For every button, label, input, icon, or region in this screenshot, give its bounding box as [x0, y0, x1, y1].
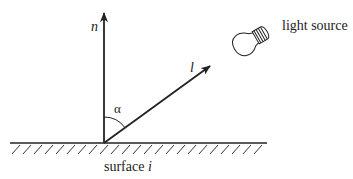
- hatch-mark: [100, 145, 108, 154]
- hatch-mark: [89, 145, 97, 154]
- hatch-mark: [188, 145, 196, 154]
- hatch-mark: [23, 145, 31, 154]
- hatch-mark: [210, 145, 218, 154]
- hatch-mark: [221, 145, 229, 154]
- surface-label-text: surface: [104, 159, 148, 174]
- hatch-mark: [78, 145, 86, 154]
- hatch-mark: [45, 145, 53, 154]
- light-vector-label: l: [190, 60, 194, 75]
- angle-arc: [104, 117, 125, 128]
- hatch-mark: [243, 145, 251, 154]
- hatch-mark: [177, 145, 185, 154]
- surface-index: i: [148, 159, 152, 174]
- surface-hatching: [12, 145, 262, 154]
- hatch-mark: [232, 145, 240, 154]
- hatch-mark: [12, 145, 20, 154]
- hatch-mark: [166, 145, 174, 154]
- light-bulb-icon: [229, 21, 273, 59]
- normal-label: n: [91, 19, 98, 34]
- angle-label: α: [114, 101, 121, 116]
- hatch-mark: [56, 145, 64, 154]
- light-source-label: light source: [282, 18, 348, 33]
- hatch-mark: [199, 145, 207, 154]
- surface-label: surface i: [104, 159, 152, 174]
- hatch-mark: [34, 145, 42, 154]
- hatch-mark: [111, 145, 119, 154]
- hatch-mark: [155, 145, 163, 154]
- lighting-diagram: n l α light source surface i: [0, 0, 353, 179]
- hatch-mark: [133, 145, 141, 154]
- hatch-mark: [122, 145, 130, 154]
- hatch-mark: [254, 145, 262, 154]
- hatch-mark: [67, 145, 75, 154]
- hatch-mark: [144, 145, 152, 154]
